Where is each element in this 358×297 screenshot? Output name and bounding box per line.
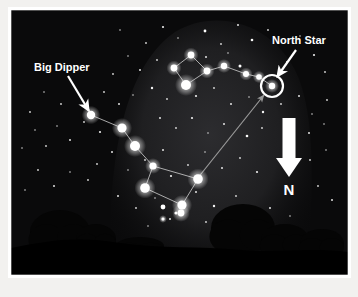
background-star (103, 91, 105, 93)
background-star (56, 125, 58, 127)
background-star (135, 207, 137, 209)
background-star (239, 157, 241, 159)
bright-star (162, 218, 165, 221)
star-phecda (177, 200, 186, 209)
background-star (177, 37, 179, 39)
background-star (111, 151, 113, 153)
star-mizar (117, 123, 126, 132)
background-star (53, 185, 55, 187)
background-star (289, 215, 291, 217)
background-star (237, 24, 239, 26)
star-handle1 (221, 63, 227, 69)
background-star (112, 73, 114, 75)
background-star (205, 56, 207, 58)
background-star (298, 95, 300, 97)
sky-scene: N Big Dipper North Star (11, 10, 348, 275)
background-star (213, 205, 215, 207)
background-star (309, 159, 311, 161)
background-star (34, 129, 36, 131)
background-star (69, 139, 71, 141)
background-star (43, 91, 45, 93)
background-star (239, 65, 242, 68)
background-star (118, 103, 120, 105)
background-star (175, 127, 177, 129)
background-star (213, 87, 215, 89)
background-star (170, 175, 172, 177)
background-star (311, 113, 313, 115)
background-star (220, 43, 222, 45)
star-handle2 (243, 71, 249, 77)
background-star (169, 218, 171, 220)
star-polaris (269, 83, 275, 89)
background-star (207, 132, 209, 134)
background-star (191, 117, 193, 119)
background-star (127, 169, 129, 171)
background-star (326, 99, 328, 101)
night-sky-figure: N Big Dipper North Star (0, 0, 358, 297)
background-star (147, 225, 149, 227)
star-handle3 (256, 74, 262, 80)
background-star (60, 103, 62, 105)
background-star (37, 169, 39, 171)
star-bowl4 (204, 68, 211, 75)
background-star (162, 26, 164, 28)
background-star (166, 98, 168, 100)
star-kochab (181, 80, 191, 90)
background-star (21, 147, 23, 149)
background-star (325, 149, 327, 151)
background-star (29, 111, 31, 113)
background-star (230, 103, 232, 105)
background-star (267, 29, 269, 31)
background-star (246, 135, 249, 138)
background-star (205, 221, 207, 223)
background-star (227, 52, 229, 54)
background-star (235, 195, 237, 197)
background-star (117, 195, 119, 197)
background-star (331, 199, 333, 201)
background-star (156, 59, 158, 61)
background-star (195, 191, 197, 193)
big-dipper-label: Big Dipper (34, 61, 90, 73)
background-star (144, 159, 146, 161)
background-star (69, 171, 71, 173)
star-dubhe (193, 174, 203, 184)
background-star (154, 197, 156, 199)
background-star (151, 87, 153, 89)
background-star (195, 95, 197, 97)
background-star (256, 171, 258, 173)
background-star (132, 94, 134, 96)
background-star (261, 127, 263, 129)
background-star (161, 205, 166, 210)
background-star (127, 55, 129, 57)
background-star (262, 111, 264, 113)
background-star (323, 123, 325, 125)
background-star (251, 39, 254, 42)
background-star (145, 42, 147, 44)
north-arrow-shaft (283, 118, 296, 158)
background-star (221, 167, 223, 169)
sky-diagram-svg: N Big Dipper North Star (0, 0, 358, 297)
north-star-label: North Star (272, 34, 327, 46)
background-star (280, 103, 282, 105)
background-star (308, 132, 310, 134)
background-star (24, 189, 26, 191)
star-bowl3 (188, 52, 195, 59)
background-star (248, 96, 250, 98)
star-alkaid (87, 111, 95, 119)
background-star (204, 30, 207, 33)
star-alioth (130, 141, 140, 151)
background-star (204, 151, 206, 153)
background-star (139, 69, 141, 71)
background-star (317, 185, 319, 187)
background-star (96, 163, 98, 165)
background-star (45, 145, 47, 147)
background-star (324, 71, 326, 73)
background-star (87, 179, 89, 181)
background-star (223, 123, 225, 125)
background-star (119, 29, 121, 31)
star-merak (140, 183, 150, 193)
star-pherkad (171, 65, 178, 72)
background-star (313, 54, 315, 56)
star-megrez (149, 162, 156, 169)
background-star (162, 149, 164, 151)
